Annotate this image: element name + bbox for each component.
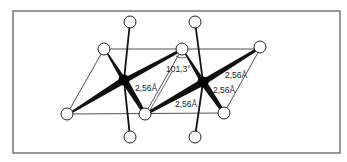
ligand-atom bbox=[124, 16, 136, 28]
ligand-atom bbox=[218, 107, 230, 119]
ligand-atom bbox=[176, 43, 188, 55]
apical-bonds bbox=[124, 22, 203, 137]
metal-atom bbox=[119, 75, 130, 86]
bond-length-label-left: 2,56Å bbox=[135, 83, 158, 93]
ligand-atom bbox=[189, 131, 201, 143]
ligand-atom bbox=[189, 16, 201, 28]
bond-length-label-right-lower: 2,56Å bbox=[213, 85, 236, 95]
ligand-atom bbox=[139, 108, 151, 120]
bond-length-label-right-upper: 2,56Å bbox=[225, 70, 248, 80]
ligand-atom bbox=[124, 131, 136, 143]
metal-atom bbox=[198, 77, 209, 88]
ligand-atom bbox=[254, 41, 266, 53]
crystal-structure-diagram: 101,3° 2,56Å 2,56Å 2,56Å 2,56Å bbox=[0, 0, 347, 162]
angle-label: 101,3° bbox=[166, 64, 191, 74]
figure-frame bbox=[13, 11, 340, 153]
ligand-atom bbox=[98, 43, 110, 55]
bond-length-label-center: 2,56Å bbox=[175, 99, 198, 109]
ligand-atom bbox=[61, 108, 73, 120]
